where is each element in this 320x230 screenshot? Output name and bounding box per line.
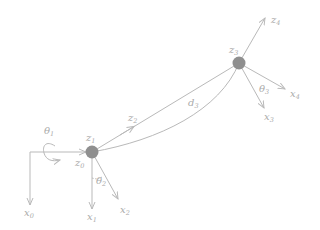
x3-label: x3 [264, 111, 274, 124]
kinematic-diagram: θ1 x0 z0 z1 θ2 x1 x2 z2 d3 z3 z4 θ3 x4 x… [0, 0, 320, 230]
x2-label: x2 [120, 204, 130, 217]
z4-label: z4 [270, 14, 280, 27]
z3-label: z3 [228, 44, 238, 57]
joint-2 [233, 57, 246, 70]
z0-label: z0 [74, 157, 84, 170]
x0-label: x0 [24, 207, 34, 220]
theta1-label: θ1 [44, 125, 54, 138]
z1-label: z1 [85, 132, 95, 145]
theta2-label: θ2 [96, 175, 106, 188]
z2-axis-line [92, 63, 239, 152]
theta3-label: θ3 [259, 83, 269, 96]
z2-label: z2 [127, 112, 137, 125]
x4-label: x4 [290, 88, 300, 101]
d3-label: d3 [188, 97, 199, 110]
z2-arrow [120, 127, 134, 136]
x1-label: x1 [87, 211, 97, 224]
joint-1 [86, 146, 99, 159]
z4-axis [239, 18, 265, 63]
